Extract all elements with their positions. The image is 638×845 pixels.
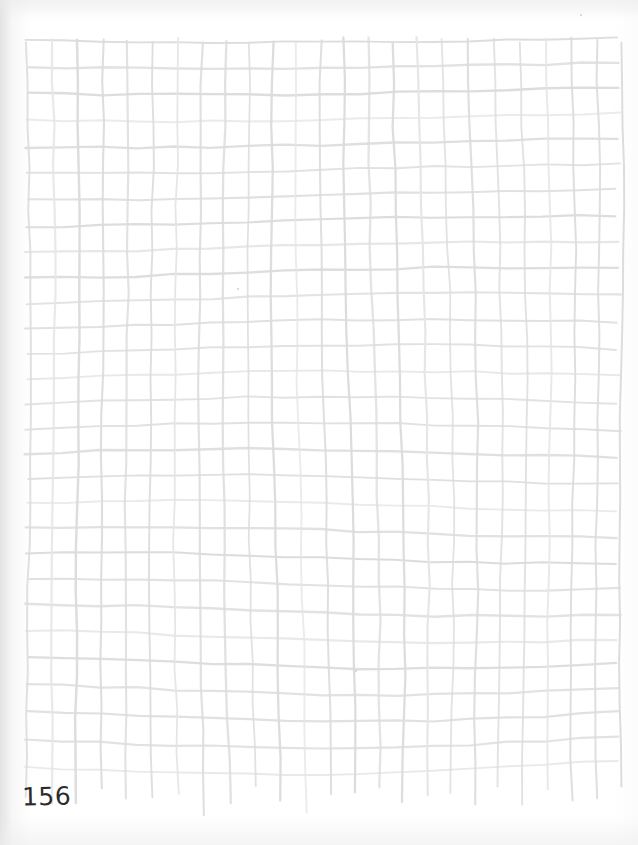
grid-line-horizontal (28, 370, 622, 379)
grid-line-vertical (51, 39, 55, 804)
grid-line-vertical (248, 43, 256, 786)
hand-drawn-grid (0, 0, 638, 845)
grid-line-vertical (546, 39, 552, 790)
grid-line-horizontal (25, 737, 619, 749)
speck-lower (355, 670, 357, 672)
grid-line-vertical (619, 43, 624, 787)
grid-line-vertical (520, 42, 528, 804)
grid-line-vertical (295, 43, 306, 812)
grid-line-vertical (125, 41, 129, 799)
grid-line-vertical (271, 42, 281, 801)
grid-line-horizontal (28, 711, 618, 721)
grid-line-horizontal (26, 423, 621, 432)
grid-line-vertical (417, 37, 430, 795)
grid-line-vertical (494, 39, 503, 787)
grid-line-horizontal (25, 604, 621, 617)
grid-line-horizontal (25, 319, 617, 328)
scanned-page: 156 (0, 0, 638, 845)
grid-line-vertical (149, 42, 154, 797)
grid-line-vertical (75, 40, 80, 803)
grid-line-horizontal (28, 189, 615, 200)
grid-line-vertical (320, 40, 332, 794)
grid-line-horizontal (29, 657, 616, 669)
grid-line-horizontal (29, 579, 620, 591)
grid-line-horizontal (25, 448, 617, 458)
grid-line-horizontal (27, 500, 616, 512)
grid-line-horizontal (27, 113, 621, 123)
grid-line-vertical (198, 43, 204, 815)
grid-line-horizontal (26, 527, 617, 538)
grid-line-horizontal (26, 630, 616, 643)
grid-line-vertical (173, 38, 179, 794)
grid-line-vertical (595, 40, 600, 799)
grid-line-vertical (442, 39, 455, 793)
page-number: 156 (22, 783, 72, 809)
grid-line-horizontal (25, 139, 617, 149)
speck-corner (580, 14, 582, 16)
grid-line-horizontal (25, 761, 618, 775)
grid-line-vertical (100, 40, 104, 789)
grid-line-horizontal (27, 163, 620, 173)
grid-line-vertical (223, 41, 231, 803)
grid-line-horizontal (29, 63, 619, 69)
grid-line-vertical (468, 39, 478, 805)
grid-line-vertical (343, 37, 355, 792)
grid-line-vertical (369, 38, 381, 788)
grid-line-horizontal (29, 88, 619, 96)
grid-line-horizontal (27, 292, 622, 304)
speck-upper (237, 288, 239, 290)
grid-line-horizontal (28, 474, 618, 483)
grid-line-vertical (570, 37, 576, 800)
grid-line-horizontal (27, 684, 620, 696)
grid-line-horizontal (26, 552, 616, 564)
